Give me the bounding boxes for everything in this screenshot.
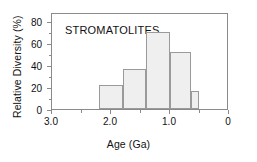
stromatolites-histogram-figure: Relative Diversity (%) 020406080 STROMAT…: [0, 0, 257, 162]
x-axis-tick-mark: [228, 110, 229, 114]
x-axis-minor-tick-mark: [140, 110, 141, 113]
histogram-bar: [123, 69, 147, 109]
x-axis-tick-label: 0: [213, 116, 243, 127]
histogram-bar: [191, 91, 200, 109]
x-axis-tick-label: 3.0: [36, 116, 66, 127]
histogram-bar: [146, 32, 170, 109]
x-axis-label: Age (Ga): [0, 138, 257, 150]
y-axis-tick-label: 60: [16, 38, 42, 49]
y-axis-tick-label: 80: [16, 16, 42, 27]
x-axis-tick-mark: [51, 110, 52, 114]
y-axis-tick-label: 40: [16, 60, 42, 71]
x-axis-minor-tick-mark: [81, 110, 82, 113]
y-axis-tick-label: 20: [16, 82, 42, 93]
chart-annotation-title: STROMATOLITES: [65, 24, 159, 36]
x-axis-tick-label: 2.0: [95, 116, 125, 127]
y-axis-ticks: 020406080: [0, 13, 51, 110]
x-axis-tick-label: 1.0: [154, 116, 184, 127]
x-axis-minor-tick-mark: [199, 110, 200, 113]
x-axis-tick-mark: [110, 110, 111, 114]
plot-area: STROMATOLITES: [51, 13, 228, 110]
histogram-bar: [170, 52, 191, 109]
y-axis-tick-label: 0: [16, 105, 42, 116]
x-axis-ticks: 3.02.01.00: [51, 110, 228, 132]
x-axis-tick-mark: [169, 110, 170, 114]
histogram-bar: [99, 85, 123, 109]
